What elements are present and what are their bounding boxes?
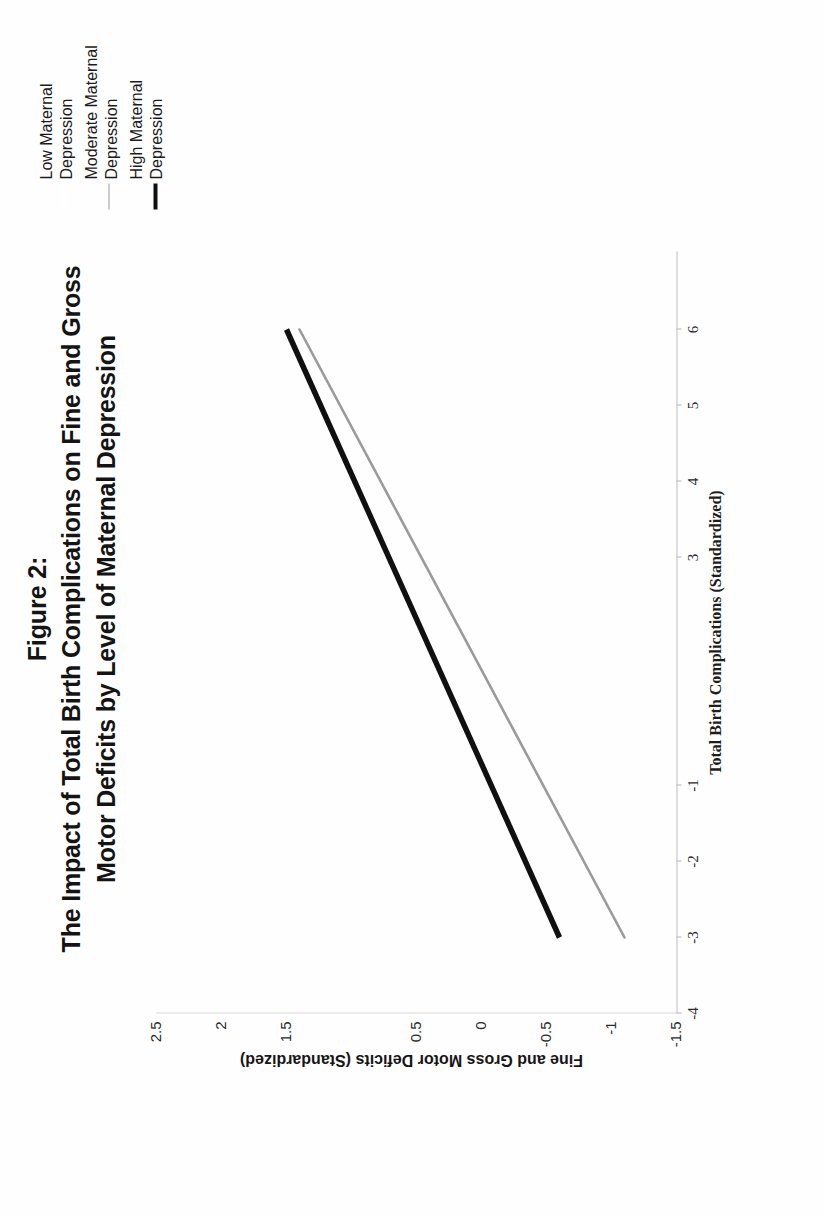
legend-label-line-1: High Maternal (127, 79, 144, 179)
x-tick-label: 3 (684, 553, 701, 561)
x-tick-mark (676, 1012, 681, 1013)
legend-label-line-1: Moderate Maternal (82, 45, 99, 179)
legend-item-low-maternal-depression[interactable]: Low Maternal Depression (36, 9, 77, 209)
legend-item-label: High Maternal Depression (126, 9, 167, 179)
legend-label-line-1: Low Maternal (37, 83, 54, 179)
legend-item-label: Low Maternal Depression (36, 9, 77, 179)
legend-item-high-maternal-depression[interactable]: High Maternal Depression (126, 9, 167, 209)
y-axis-title: Fine and Gross Motor Deficits (Standardi… (151, 1050, 671, 1068)
x-tick-mark (676, 860, 681, 861)
x-tick-mark (676, 556, 681, 557)
legend-line-swatch-icon (108, 183, 109, 209)
chart-plot-area: -4 -3 -2 -1 3 4 5 6 2.5 2 1.5 0.5 0 -0.5… (150, 145, 740, 1105)
x-tick-label: 6 (684, 325, 701, 333)
legend-item-moderate-maternal-depression[interactable]: Moderate Maternal Depression (81, 9, 122, 209)
x-tick-mark (676, 784, 681, 785)
legend-label-line-2: Depression (146, 9, 166, 179)
x-axis-title: Total Birth Complications (Standardized) (706, 251, 724, 1013)
legend-label-line-2: Depression (101, 9, 121, 179)
legend-item-label: Moderate Maternal Depression (81, 9, 122, 179)
line-high-maternal-depression (286, 329, 559, 937)
x-tick-label: -1 (684, 779, 701, 792)
data-lines-container (156, 253, 676, 1013)
x-tick-label: -4 (684, 1007, 701, 1020)
x-tick-mark (676, 936, 681, 937)
x-tick-label: -2 (684, 855, 701, 868)
rotated-page: Figure 2: The Impact of Total Birth Comp… (0, 0, 823, 1217)
legend-line-swatch-icon (63, 183, 65, 209)
figure-page: Figure 2: The Impact of Total Birth Comp… (0, 0, 823, 1217)
x-tick-label: 5 (684, 401, 701, 409)
legend-label-line-2: Depression (56, 9, 76, 179)
x-tick-mark (676, 480, 681, 481)
x-tick-mark (676, 328, 681, 329)
regression-lines-svg (156, 253, 676, 1013)
chart-legend: Low Maternal Depression Moderate Materna… (36, 9, 171, 209)
x-tick-label: -3 (684, 931, 701, 944)
x-tick-mark (676, 404, 681, 405)
legend-line-swatch-icon (153, 183, 157, 209)
x-tick-label: 4 (684, 477, 701, 485)
line-moderate-maternal-depression (299, 329, 624, 937)
